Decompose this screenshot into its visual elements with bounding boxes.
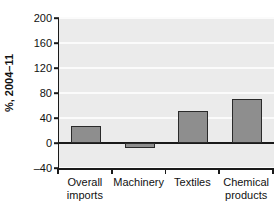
bar — [125, 143, 155, 148]
gridline — [59, 17, 274, 19]
bar — [232, 99, 262, 143]
y-axis-tick-label: –40 — [34, 162, 52, 174]
bar — [178, 111, 208, 144]
x-axis-category-label-line: Chemical — [219, 176, 273, 189]
x-axis-tick-mark — [165, 168, 167, 174]
y-axis-tick-mark — [54, 42, 59, 44]
x-axis-category-label-line: Machinery — [112, 176, 166, 189]
bar-chart: %, 2004–11 –4004080120160200 Overallimpo… — [0, 0, 280, 205]
y-axis-tick-mark — [54, 117, 59, 119]
x-axis-category-label: Overallimports — [58, 176, 112, 202]
x-axis-category-label: Machinery — [112, 176, 166, 189]
gridline — [59, 42, 274, 44]
x-axis-category-label-line: Overall — [58, 176, 112, 189]
x-axis-category-label-line: imports — [58, 189, 112, 202]
x-axis-category-label: Chemicalproducts — [219, 176, 273, 202]
x-axis-tick-mark — [111, 168, 113, 174]
y-axis-tick-mark — [54, 17, 59, 19]
y-axis-tick-mark — [54, 67, 59, 69]
x-axis-tick-mark — [272, 168, 274, 174]
y-axis-tick-label: 40 — [40, 112, 52, 124]
x-axis-tick-mark — [218, 168, 220, 174]
x-axis-category-label-line: products — [219, 189, 273, 202]
y-axis-tick-labels: –4004080120160200 — [18, 0, 54, 175]
x-axis-category-label: Textiles — [166, 176, 220, 189]
x-axis-category-label-line: Textiles — [166, 176, 220, 189]
plot-area — [58, 18, 274, 168]
y-axis-tick-label: 120 — [34, 62, 52, 74]
y-axis-title-text: %, 2004–11 — [3, 53, 15, 111]
y-axis-tick-label: 200 — [34, 12, 52, 24]
gridline — [59, 67, 274, 69]
y-axis-tick-mark — [54, 92, 59, 94]
y-axis-tick-label: 80 — [40, 87, 52, 99]
y-axis-title: %, 2004–11 — [0, 0, 18, 165]
y-axis-tick-label: 0 — [46, 137, 52, 149]
x-axis-category-labels: OverallimportsMachineryTextilesChemicalp… — [58, 176, 273, 205]
bar — [71, 126, 101, 144]
y-axis-tick-label: 160 — [34, 37, 52, 49]
x-axis-tick-mark — [57, 168, 59, 174]
gridline — [59, 92, 274, 94]
